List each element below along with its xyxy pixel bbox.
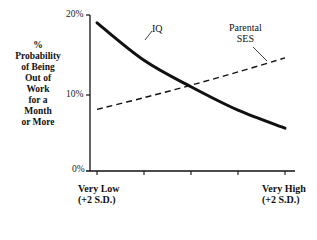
- x-label-line: (+2 S.D.): [78, 194, 120, 205]
- x-label-very-low: Very Low (+2 S.D.): [78, 183, 120, 205]
- x-label-line: Very High: [262, 183, 306, 194]
- ses-leader-line: [253, 47, 267, 61]
- annotation-iq: IQ: [152, 23, 163, 34]
- ses-label-line: Parental: [229, 22, 262, 33]
- x-label-line: Very Low: [78, 183, 120, 194]
- iq-leader-line: [145, 31, 152, 40]
- annotation-parental-ses: Parental SES: [229, 22, 262, 44]
- series-parental-ses: [97, 58, 285, 109]
- x-label-very-high: Very High (+2 S.D.): [262, 183, 306, 205]
- x-label-line: (+2 S.D.): [262, 194, 306, 205]
- ses-label-line: SES: [229, 33, 262, 44]
